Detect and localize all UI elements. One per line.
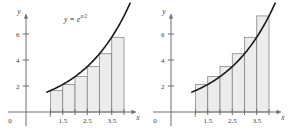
x-axis-label: x <box>135 113 140 122</box>
origin-label: 0 <box>153 117 157 125</box>
rectangles-group <box>196 16 270 112</box>
inscribed-rectangles-panel: 2461.52.53.501xy y = ex/2 <box>0 0 145 135</box>
x-tick-label: 1.5 <box>203 117 212 125</box>
rectangle-bar <box>51 91 63 112</box>
rectangle-bar <box>257 16 269 112</box>
rectangle-bar <box>63 84 75 112</box>
x-tick-label: 1.5 <box>58 117 67 125</box>
y-ticks-group: 246 <box>161 31 174 91</box>
origin-label: 0 <box>8 117 12 125</box>
circumscribed-rectangles-panel: 2461.52.53.501xy y = ex/2 <box>145 0 290 135</box>
riemann-sum-figure: 2461.52.53.501xy y = ex/2 2461.52.53.501… <box>0 0 290 135</box>
right-plot-canvas: 2461.52.53.501xy <box>145 0 290 135</box>
rectangle-bar <box>100 54 112 112</box>
y-tick-label: 4 <box>161 57 165 65</box>
y-axis-label: y <box>16 7 21 16</box>
x-axis-arrowhead <box>277 110 282 114</box>
curve-equation-label-left: y = ex/2 <box>64 13 87 24</box>
rectangle-bar <box>245 37 257 112</box>
rectangle-bar <box>87 67 99 112</box>
y-tick-label: 4 <box>16 57 20 65</box>
x-tick-label: 2.5 <box>228 117 237 125</box>
rectangle-bar <box>208 77 220 112</box>
x-tick-label: 3.5 <box>107 117 116 125</box>
y-axis-arrowhead <box>24 14 28 19</box>
y-tick-label: 6 <box>16 31 20 39</box>
rectangle-bar <box>220 67 232 112</box>
y-tick-label: 6 <box>161 31 165 39</box>
y-axis-label: y <box>161 7 166 16</box>
x-axis-label: x <box>280 113 285 122</box>
x-tick-label-one: 1 <box>49 112 52 118</box>
x-tick-label: 3.5 <box>252 117 261 125</box>
rectangle-bar <box>232 54 244 112</box>
y-tick-label: 2 <box>161 83 165 91</box>
equation-exponent-left: x/2 <box>80 13 87 19</box>
y-ticks-group: 246 <box>16 31 29 91</box>
y-tick-label: 2 <box>16 83 20 91</box>
y-axis-arrowhead <box>169 14 173 19</box>
rectangle-bar <box>75 77 87 112</box>
x-axis-arrowhead <box>132 110 137 114</box>
x-tick-label-one: 1 <box>194 112 197 118</box>
rectangle-bar <box>112 37 124 112</box>
equation-base-left: y = e <box>64 15 80 24</box>
rectangles-group <box>51 37 125 112</box>
x-tick-label: 2.5 <box>83 117 92 125</box>
